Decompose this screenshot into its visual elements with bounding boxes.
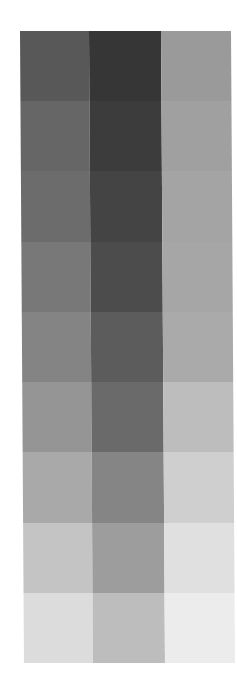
grayscale-swatch-grid (20, 31, 235, 663)
swatch-r2-c3 (161, 101, 231, 171)
swatch-r1-c3 (161, 31, 231, 101)
swatch-r9-c3 (165, 593, 235, 663)
swatch-r6-c2 (91, 382, 163, 452)
swatch-r3-c3 (162, 171, 232, 241)
swatch-r5-c3 (163, 312, 233, 382)
swatch-r9-c2 (93, 593, 165, 663)
swatch-r1-c1 (20, 31, 89, 101)
swatch-r1-c2 (89, 31, 161, 101)
swatch-r8-c3 (164, 523, 234, 593)
swatch-r2-c2 (89, 101, 161, 171)
swatch-r8-c1 (23, 523, 92, 593)
swatch-r5-c1 (22, 312, 91, 382)
swatch-r6-c3 (163, 382, 233, 452)
swatch-r4-c3 (162, 242, 232, 312)
swatch-r6-c1 (22, 382, 91, 452)
swatch-r4-c2 (90, 242, 162, 312)
swatch-r9-c1 (24, 593, 93, 663)
swatch-r4-c1 (21, 242, 90, 312)
swatch-r3-c1 (21, 171, 90, 241)
swatch-r5-c2 (91, 312, 163, 382)
swatch-r7-c2 (92, 452, 164, 522)
swatch-r3-c2 (90, 171, 162, 241)
swatch-r2-c1 (20, 101, 89, 171)
swatch-r8-c2 (92, 523, 164, 593)
swatch-r7-c3 (164, 452, 234, 522)
swatch-r7-c1 (23, 452, 92, 522)
